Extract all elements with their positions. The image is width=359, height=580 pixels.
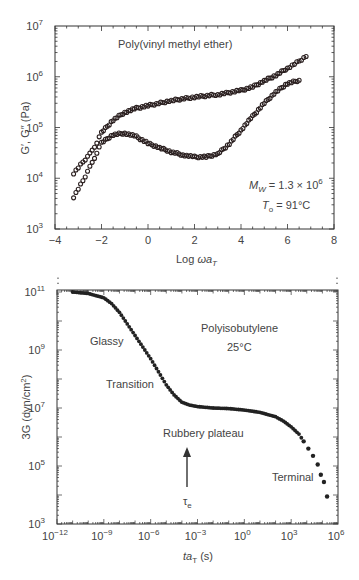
tau-e-arrow-icon xyxy=(183,447,191,487)
bottom-x-tick-label: 10−12 xyxy=(42,528,68,542)
bottom-y-tick-label: 109 xyxy=(28,342,45,356)
top-x-tick-labels: −4−202468 xyxy=(49,234,337,246)
top-chart-title: Poly(vinyl methyl ether) xyxy=(118,38,232,50)
bottom-plot-frame xyxy=(57,290,338,524)
bottom-y-tick-label: 1011 xyxy=(24,284,45,298)
bottom-x-axis-label: taT (s) xyxy=(183,550,213,565)
bottom-y-axis-label: 3G (dyn/cm2) xyxy=(19,375,32,440)
top-x-tick-label: 6 xyxy=(284,234,290,246)
bottom-x-tick-label: 10−6 xyxy=(138,528,160,542)
transition-label: Transition xyxy=(106,378,154,390)
bottom-axis-ticks xyxy=(57,278,338,524)
tau-e-label: τe xyxy=(183,495,192,510)
t0-annotation: To = 91°C xyxy=(262,199,310,214)
bottom-y-tick-label: 107 xyxy=(28,400,45,414)
bottom-y-tick-labels: 1031051071091011 xyxy=(24,284,45,530)
bottom-y-tick-label: 103 xyxy=(28,516,45,530)
top-y-tick-label: 104 xyxy=(26,170,43,184)
terminal-label: Terminal xyxy=(272,471,314,483)
mw-annotation: MW = 1.3 × 106 xyxy=(249,177,323,194)
top-x-axis-label: Log ωaT xyxy=(176,253,218,268)
top-x-tick-label: −2 xyxy=(95,234,108,246)
temperature-label: 25°C xyxy=(227,341,252,353)
bottom-y-tick-label: 105 xyxy=(28,458,45,472)
bottom-data-series xyxy=(71,290,330,499)
top-chart-gprime-gdoubleprime: −4−202468 103104105106107 Poly(vinyl met… xyxy=(0,0,359,285)
top-y-axis-label: G′, G″ (Pa) xyxy=(19,101,31,154)
rubbery-plateau-label: Rubbery plateau xyxy=(163,427,244,439)
bottom-chart-title: Polyisobutylene xyxy=(201,322,278,334)
top-y-tick-label: 107 xyxy=(26,18,43,32)
bottom-x-tick-label: 100 xyxy=(234,528,251,542)
glassy-label: Glassy xyxy=(90,335,124,347)
top-x-tick-label: 4 xyxy=(238,234,244,246)
bottom-x-tick-label: 106 xyxy=(328,528,345,542)
top-x-tick-label: 2 xyxy=(191,234,197,246)
top-x-tick-label: 0 xyxy=(145,234,151,246)
bottom-x-tick-label: 10−3 xyxy=(185,528,207,542)
bottom-x-tick-label: 103 xyxy=(281,528,298,542)
top-y-tick-label: 103 xyxy=(26,221,43,235)
bottom-x-tick-labels: 10−1210−910−610−3100103106 xyxy=(42,528,345,542)
top-y-tick-label: 106 xyxy=(26,69,43,83)
bottom-x-tick-label: 10−9 xyxy=(91,528,113,542)
top-x-tick-label: −4 xyxy=(49,234,62,246)
top-x-tick-label: 8 xyxy=(331,234,337,246)
